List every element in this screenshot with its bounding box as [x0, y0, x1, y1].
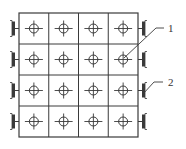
clamp-bar-icon: [12, 84, 15, 98]
clamp-bar-icon: [142, 84, 145, 98]
callout-label-2: 2: [168, 77, 174, 88]
clamp-bar-icon: [142, 115, 145, 129]
callout-label-1: 1: [168, 23, 174, 34]
callout-leader-2: [143, 82, 163, 94]
clamp-bar-icon: [12, 53, 15, 67]
clamp-bar-icon: [142, 22, 145, 36]
clamp-bar-icon: [12, 115, 15, 129]
grid-diagram: [0, 0, 186, 149]
clamp-bar-icon: [12, 22, 15, 36]
clamp-bar-icon: [142, 53, 145, 67]
